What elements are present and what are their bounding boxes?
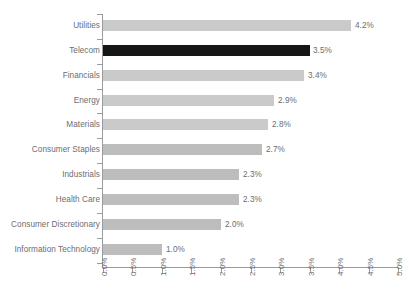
x-axis-tick-label: 2.5% <box>248 258 257 276</box>
value-label-consumer-discretionary: 2.0% <box>225 220 244 229</box>
bar-utilities <box>103 20 351 31</box>
category-label-materials: Materials <box>0 120 100 129</box>
value-label-utilities: 4.2% <box>355 21 374 30</box>
x-axis-tick-label: 0.5% <box>129 258 138 276</box>
value-label-health-care: 2.3% <box>243 195 262 204</box>
category-label-utilities: Utilities <box>0 21 100 30</box>
bar-telecom <box>103 45 310 56</box>
y-axis-tick <box>97 138 102 139</box>
x-axis-tick-label: 0.0% <box>100 258 109 276</box>
bar-chart: Utilities Telecom Financials Energy Mate… <box>0 0 409 308</box>
x-axis-tick-label: 5.0% <box>395 258 404 276</box>
x-axis-tick-label: 4.0% <box>336 258 345 276</box>
bar-financials <box>103 70 304 81</box>
value-label-consumer-staples: 2.7% <box>266 145 285 154</box>
bar-industrials <box>103 169 239 180</box>
category-label-health-care: Health Care <box>0 195 100 204</box>
bar-health-care <box>103 194 239 205</box>
value-label-materials: 2.8% <box>272 120 291 129</box>
category-label-consumer-staples: Consumer Staples <box>0 145 100 154</box>
y-axis-tick <box>97 163 102 164</box>
y-axis-tick <box>97 113 102 114</box>
value-label-financials: 3.4% <box>308 71 327 80</box>
x-axis-tick-label: 3.5% <box>307 258 316 276</box>
y-axis-tick <box>97 238 102 239</box>
y-axis-tick <box>97 188 102 189</box>
y-axis-tick <box>97 213 102 214</box>
x-axis-tick-label: 1.5% <box>188 258 197 276</box>
x-axis-tick-label: 4.5% <box>366 258 375 276</box>
x-axis-tick-label: 1.0% <box>159 258 168 276</box>
value-label-information-technology: 1.0% <box>166 245 185 254</box>
bar-materials <box>103 119 268 130</box>
value-label-industrials: 2.3% <box>243 170 262 179</box>
category-label-financials: Financials <box>0 71 100 80</box>
category-label-industrials: Industrials <box>0 170 100 179</box>
y-axis-tick <box>97 64 102 65</box>
category-label-energy: Energy <box>0 96 100 105</box>
y-axis-tick <box>97 39 102 40</box>
bar-energy <box>103 95 274 106</box>
value-label-telecom: 3.5% <box>313 46 332 55</box>
value-label-energy: 2.9% <box>278 96 297 105</box>
category-label-consumer-discretionary: Consumer Discretionary <box>0 220 100 229</box>
y-axis-tick <box>97 14 102 15</box>
y-axis-tick <box>97 89 102 90</box>
bar-consumer-staples <box>103 144 262 155</box>
category-label-information-technology: Information Technology <box>0 245 100 254</box>
x-axis-tick-label: 2.0% <box>218 258 227 276</box>
bar-consumer-discretionary <box>103 219 221 230</box>
category-label-telecom: Telecom <box>0 46 100 55</box>
bar-information-technology <box>103 244 162 255</box>
x-axis-tick-label: 3.0% <box>277 258 286 276</box>
